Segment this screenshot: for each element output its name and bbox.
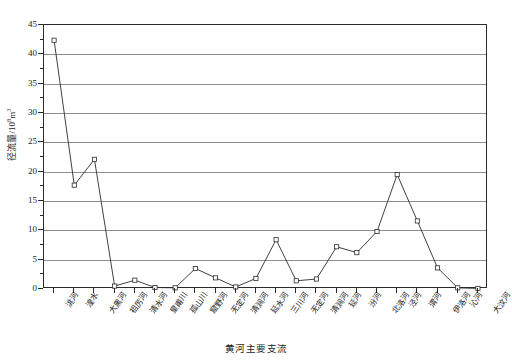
- data-point-marker: [375, 229, 379, 233]
- y-axis-tick-label: 45: [28, 20, 37, 29]
- y-axis-tick-label: 20: [28, 166, 37, 175]
- plot-area: [43, 24, 487, 288]
- y-axis-tick-label: 25: [28, 137, 37, 146]
- data-point-marker: [213, 276, 217, 280]
- data-point-marker: [254, 276, 258, 280]
- x-axis-tick-label: 洮河: [65, 291, 81, 309]
- x-axis-tick-label: 延河: [347, 291, 363, 309]
- y-axis-title-unit-exponent: 3: [5, 108, 12, 111]
- y-axis-title-text: 径流量/10: [7, 122, 17, 161]
- y-axis-tick-label: 10: [28, 225, 37, 234]
- x-axis-tick-label: 延水河: [270, 291, 291, 316]
- data-point-marker: [133, 278, 137, 282]
- y-axis-tick-label: 30: [28, 108, 37, 117]
- x-axis-labels: 洮河湟水大黑河祖厉河清水河皇甫川孤山川窟野河无定河清涧河延水河三川河无定河清涧河…: [0, 291, 512, 341]
- x-axis-tick-label: 清涧河: [250, 291, 271, 316]
- data-point-marker: [435, 266, 439, 270]
- data-point-marker: [193, 266, 197, 270]
- data-point-marker: [415, 219, 419, 223]
- x-axis-tick-label: 大黑河: [109, 291, 130, 316]
- y-axis-tick-label: 35: [28, 78, 37, 87]
- y-axis: 径流量/108m3 051015202530354045: [0, 0, 43, 290]
- y-axis-title-exponent: 8: [5, 119, 12, 122]
- data-point-marker: [72, 183, 76, 187]
- data-point-marker: [314, 277, 318, 281]
- y-axis-tick-label: 40: [28, 49, 37, 58]
- x-axis-tick-label: 孤山川: [189, 291, 210, 316]
- data-point-marker: [395, 173, 399, 177]
- x-axis-tick-label: 无定河: [230, 291, 251, 316]
- x-axis-tick-label: 无定河: [310, 291, 331, 316]
- y-axis-title: 径流量/108m3: [5, 80, 18, 190]
- x-axis-title: 黄河主要支流: [0, 341, 512, 355]
- x-axis-tick-label: 清水河: [149, 291, 170, 316]
- data-series-line: [44, 25, 488, 289]
- x-axis-tick-label: 祖厉河: [129, 291, 150, 316]
- y-axis-tick-label: 15: [28, 196, 37, 205]
- y-axis-title-unit: m: [7, 112, 17, 119]
- x-axis-tick-label: 湟水: [85, 291, 101, 309]
- x-axis-tick-label: 皇甫川: [169, 291, 190, 316]
- runoff-line-chart: 径流量/108m3 051015202530354045 洮河湟水大黑河祖厉河清…: [0, 0, 512, 362]
- data-point-marker: [274, 238, 278, 242]
- x-axis-tick-label: 渭河: [428, 291, 444, 309]
- x-axis-tick-label: 三川河: [290, 291, 311, 316]
- data-point-marker: [335, 245, 339, 249]
- data-point-marker: [52, 38, 56, 42]
- data-point-marker: [92, 157, 96, 161]
- x-axis-tick-label: 泾河: [408, 291, 424, 309]
- series-polyline: [54, 40, 478, 288]
- x-axis-tick-label: 汾河: [368, 291, 384, 309]
- x-axis-tick-label: 大汶河: [492, 291, 512, 316]
- x-axis-tick-label: 窟野河: [210, 291, 231, 316]
- data-point-marker: [355, 251, 359, 255]
- data-point-marker: [294, 279, 298, 283]
- y-axis-tick-label: 5: [33, 254, 38, 263]
